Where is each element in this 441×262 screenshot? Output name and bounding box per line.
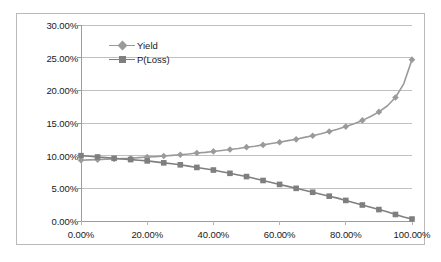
legend-key-icon: [109, 39, 135, 51]
marker-square: [95, 154, 101, 160]
legend-marker-square-icon: [119, 56, 126, 63]
plot-area: 0.00%5.00%10.00%15.00%20.00%25.00%30.00%…: [17, 14, 424, 244]
chart-legend: YieldP(Loss): [109, 38, 170, 66]
marker-square: [393, 212, 399, 218]
marker-square: [227, 171, 233, 177]
marker-square: [194, 165, 200, 171]
marker-square: [376, 207, 382, 213]
marker-square: [343, 198, 349, 204]
chart-plot-svg: [17, 14, 424, 244]
marker-diamond: [160, 153, 167, 160]
legend-label: P(Loss): [137, 54, 170, 65]
series-line-ploss: [81, 156, 412, 219]
marker-square: [78, 153, 84, 159]
legend-item-ploss[interactable]: P(Loss): [109, 52, 170, 66]
marker-diamond: [210, 148, 217, 155]
marker-square: [178, 162, 184, 168]
marker-square: [260, 178, 266, 184]
marker-square: [128, 157, 134, 163]
legend-label: Yield: [137, 40, 158, 51]
chart-frame: 0.00%5.00%10.00%15.00%20.00%25.00%30.00%…: [16, 13, 425, 245]
marker-square: [244, 174, 250, 180]
marker-square: [409, 216, 415, 222]
marker-diamond: [260, 142, 267, 149]
marker-diamond: [309, 132, 316, 139]
marker-diamond: [177, 151, 184, 158]
marker-diamond: [276, 139, 283, 146]
marker-square: [161, 160, 167, 166]
marker-square: [360, 202, 366, 208]
marker-diamond: [227, 146, 234, 153]
legend-item-yield[interactable]: Yield: [109, 38, 170, 52]
marker-diamond: [243, 144, 250, 151]
marker-diamond: [293, 136, 300, 143]
marker-square: [111, 155, 117, 161]
marker-square: [211, 167, 217, 173]
marker-square: [310, 189, 316, 195]
marker-square: [277, 182, 283, 188]
legend-marker-diamond-icon: [118, 40, 128, 50]
marker-square: [326, 193, 332, 199]
marker-diamond: [326, 128, 333, 135]
marker-square: [293, 186, 299, 192]
legend-key-icon: [109, 53, 135, 65]
marker-square: [144, 158, 150, 164]
marker-diamond: [343, 123, 350, 130]
